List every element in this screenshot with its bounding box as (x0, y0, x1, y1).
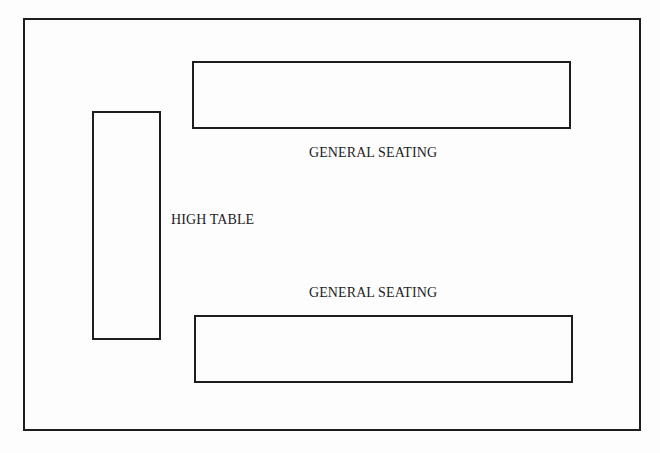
high-table (92, 111, 161, 340)
general-seating-label-top: GENERAL SEATING (309, 146, 437, 160)
general-seating-table-top (192, 61, 571, 129)
general-seating-table-bottom (194, 315, 573, 383)
high-table-label: HIGH TABLE (171, 213, 254, 227)
general-seating-label-bottom: GENERAL SEATING (309, 286, 437, 300)
seating-plan-diagram: GENERAL SEATING HIGH TABLE GENERAL SEATI… (0, 0, 660, 453)
